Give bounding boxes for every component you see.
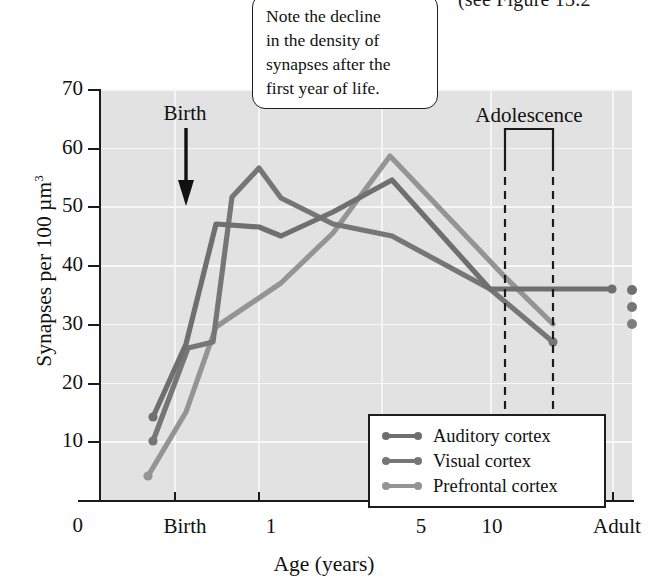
callout-line-1: Note the decline (266, 4, 426, 28)
note-callout-box: Note the decline in the density of synap… (252, 0, 438, 109)
callout-line-4: first year of life. (266, 76, 426, 100)
birth-annotation-label: Birth (163, 101, 206, 126)
legend-label-auditory-cortex: Auditory cortex (433, 426, 551, 446)
series-start-dot-auditory-cortex (148, 412, 157, 421)
adult-marker-prefrontal (627, 319, 637, 329)
series-end-dot-auditory-cortex (607, 284, 616, 293)
callout-line-2: in the density of (266, 28, 426, 52)
legend-label-prefrontal-cortex: Prefrontal cortex (433, 476, 558, 496)
legend-swatch-icon-visual (382, 454, 422, 468)
legend-swatch-icon-prefrontal (382, 479, 422, 493)
legend-item-auditory-cortex[interactable]: Auditory cortex (382, 423, 594, 448)
legend-label-visual-cortex: Visual cortex (433, 451, 531, 471)
adult-marker-auditory (627, 285, 637, 295)
series-start-dot-prefrontal-cortex (143, 471, 152, 480)
series-start-dot-visual-cortex (148, 436, 157, 445)
legend-item-prefrontal-cortex[interactable]: Prefrontal cortex (382, 473, 594, 498)
series-line-auditory-cortex (153, 180, 612, 417)
legend-swatch-icon-auditory (382, 429, 422, 443)
chart-legend: Auditory cortex Visual cortex Prefrontal… (368, 414, 606, 508)
birth-arrow-icon (178, 128, 194, 206)
adolescence-annotation-label: Adolescence (475, 103, 582, 128)
callout-line-3: synapses after the (266, 52, 426, 76)
adult-marker-visual (627, 302, 637, 312)
legend-item-visual-cortex[interactable]: Visual cortex (382, 448, 594, 473)
